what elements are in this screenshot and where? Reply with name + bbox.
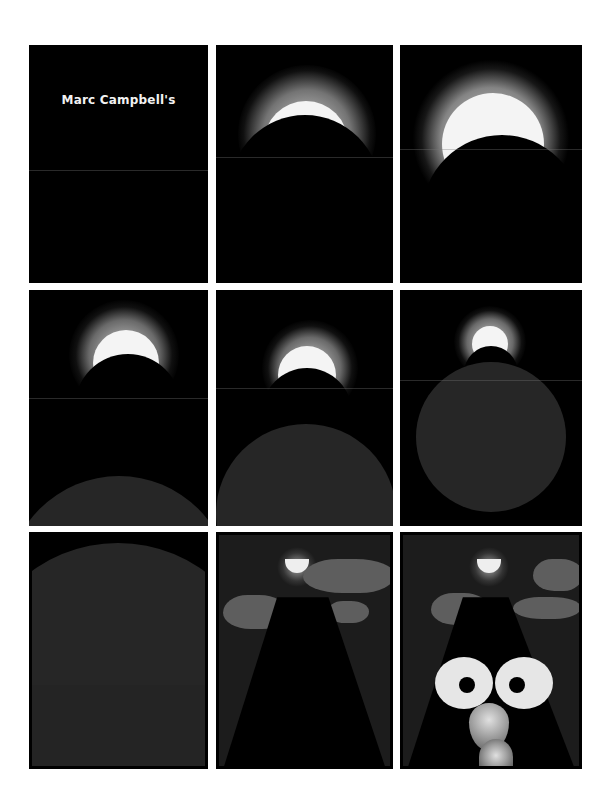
- moon-silhouette: [230, 115, 380, 265]
- right-eye: [495, 657, 553, 709]
- panel-1-title: Marc Campbell's: [29, 45, 208, 283]
- panel-5-eclipse-planet-rising: [216, 290, 393, 526]
- scan-line: [400, 149, 582, 150]
- cloud: [513, 597, 581, 619]
- scan-line: [216, 388, 393, 389]
- comic-title: Marc Campbell's: [29, 93, 208, 107]
- planet-ring: [416, 362, 566, 512]
- scan-line: [29, 398, 208, 399]
- panel-9-mountain-face: [400, 532, 582, 769]
- planet-ring: [216, 424, 393, 526]
- left-eye: [435, 657, 493, 709]
- moon-silhouette: [75, 354, 181, 460]
- cloud: [303, 559, 393, 593]
- panel-3-eclipse: [400, 45, 582, 283]
- left-pupil: [459, 677, 475, 693]
- cloud: [533, 559, 582, 591]
- moon-silhouette: [422, 135, 582, 283]
- panel-4-eclipse-planet-horizon: [29, 290, 208, 526]
- panel-7-planet-surface: [29, 532, 208, 769]
- panel-2-eclipse: [216, 45, 393, 283]
- planet-surface: [32, 685, 205, 769]
- scan-line: [400, 380, 582, 381]
- panel-6-eclipse-planet-circle: [400, 290, 582, 526]
- panel-8-mountain: [216, 532, 393, 769]
- scan-line: [29, 170, 208, 171]
- right-pupil: [509, 677, 525, 693]
- scan-line: [216, 157, 393, 158]
- comic-page: Marc Campbell's: [0, 0, 612, 808]
- chin: [479, 739, 513, 769]
- planet-ring: [29, 476, 208, 526]
